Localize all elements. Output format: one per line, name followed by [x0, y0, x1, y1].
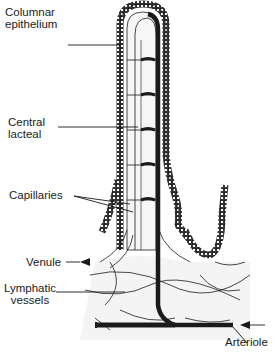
label-venule: Venule: [26, 256, 61, 268]
label-central-lacteal: Central lacteal: [8, 116, 45, 140]
capillaries-leader-2: [74, 196, 133, 212]
label-lymphatic-vessels: Lymphatic vessels: [4, 282, 56, 306]
label-arteriole: Arteriole: [225, 336, 268, 348]
lamina-propria: [100, 12, 190, 268]
label-columnar-epithelium: Columnar epithelium: [5, 6, 57, 30]
label-capillaries: Capillaries: [9, 189, 63, 201]
columnar-epithelium-layer: [102, 4, 225, 255]
venule-arrow-icon: [80, 258, 90, 266]
